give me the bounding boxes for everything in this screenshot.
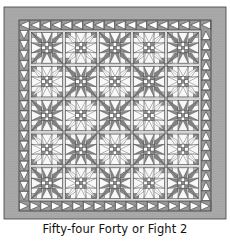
nine-patch-square xyxy=(117,185,120,188)
nine-patch-square xyxy=(83,178,86,181)
nine-patch-square xyxy=(117,148,120,151)
nine-patch-square xyxy=(147,50,150,53)
quilt-block-dark xyxy=(66,66,97,97)
nine-patch-square xyxy=(151,144,154,147)
nine-patch-square xyxy=(76,110,79,113)
quilt-block-light xyxy=(32,134,63,165)
nine-patch-square xyxy=(110,110,113,113)
nine-patch-square xyxy=(178,43,181,46)
nine-patch-square xyxy=(185,117,188,120)
nine-patch-square xyxy=(185,185,188,188)
nine-patch-square xyxy=(45,148,48,151)
nine-patch-square xyxy=(79,181,82,184)
nine-patch-square xyxy=(151,50,154,53)
nine-patch-square xyxy=(42,148,45,151)
quilt-block-dark xyxy=(168,33,199,64)
cornerstone xyxy=(62,97,65,100)
nine-patch-square xyxy=(110,148,113,151)
nine-patch-square xyxy=(181,181,184,184)
cornerstone xyxy=(164,97,167,100)
nine-patch-square xyxy=(76,43,79,46)
nine-patch-square xyxy=(83,114,86,117)
nine-patch-square xyxy=(79,46,82,49)
nine-patch-square xyxy=(83,77,86,80)
quilt-block-light xyxy=(32,66,63,97)
nine-patch-square xyxy=(49,77,52,80)
nine-patch-square xyxy=(49,80,52,83)
nine-patch-square xyxy=(79,50,82,53)
figure-caption: Fifty-four Forty or Fight 2 xyxy=(0,222,230,236)
nine-patch-square xyxy=(147,178,150,181)
nine-patch-square xyxy=(113,77,116,80)
nine-patch-square xyxy=(144,50,147,53)
nine-patch-square xyxy=(42,50,45,53)
quilt-block-dark xyxy=(168,100,199,131)
nine-patch-square xyxy=(79,144,82,147)
nine-patch-square xyxy=(144,185,147,188)
quilt-block-dark xyxy=(32,168,63,199)
quilt-block-dark xyxy=(168,168,199,199)
nine-patch-square xyxy=(45,144,48,147)
nine-patch-square xyxy=(178,83,181,86)
nine-patch-square xyxy=(83,185,86,188)
nine-patch-square xyxy=(181,178,184,181)
nine-patch-square xyxy=(185,181,188,184)
nine-patch-square xyxy=(110,185,113,188)
nine-patch-square xyxy=(144,110,147,113)
nine-patch-square xyxy=(113,50,116,53)
quilt-block-light xyxy=(134,100,165,131)
nine-patch-square xyxy=(42,80,45,83)
nine-patch-square xyxy=(42,46,45,49)
nine-patch-square xyxy=(110,46,113,49)
quilt-block-light xyxy=(66,33,97,64)
nine-patch-square xyxy=(79,83,82,86)
nine-patch-square xyxy=(185,83,188,86)
nine-patch-square xyxy=(178,117,181,120)
nine-patch-square xyxy=(147,43,150,46)
nine-patch-square xyxy=(117,181,120,184)
nine-patch-square xyxy=(151,46,154,49)
nine-patch-square xyxy=(151,80,154,83)
nine-patch-square xyxy=(117,77,120,80)
nine-patch-square xyxy=(49,144,52,147)
cornerstone xyxy=(96,131,99,134)
nine-patch-square xyxy=(181,144,184,147)
nine-patch-square xyxy=(178,50,181,53)
nine-patch-square xyxy=(144,43,147,46)
nine-patch-square xyxy=(185,144,188,147)
nine-patch-square xyxy=(181,114,184,117)
nine-patch-square xyxy=(181,185,184,188)
nine-patch-square xyxy=(76,83,79,86)
quilt-block-light xyxy=(168,134,199,165)
nine-patch-square xyxy=(45,46,48,49)
cornerstone xyxy=(130,165,133,168)
nine-patch-square xyxy=(42,178,45,181)
nine-patch-square xyxy=(151,117,154,120)
nine-patch-square xyxy=(181,117,184,120)
nine-patch-square xyxy=(49,83,52,86)
nine-patch-square xyxy=(181,110,184,113)
nine-patch-square xyxy=(76,185,79,188)
nine-patch-square xyxy=(79,178,82,181)
nine-patch-square xyxy=(117,110,120,113)
nine-patch-square xyxy=(181,148,184,151)
nine-patch-square xyxy=(181,83,184,86)
nine-patch-square xyxy=(181,151,184,154)
nine-patch-square xyxy=(110,77,113,80)
nine-patch-square xyxy=(79,80,82,83)
nine-patch-square xyxy=(151,148,154,151)
nine-patch-square xyxy=(178,77,181,80)
nine-patch-square xyxy=(83,148,86,151)
nine-patch-square xyxy=(147,110,150,113)
nine-patch-square xyxy=(147,80,150,83)
nine-patch-square xyxy=(110,50,113,53)
nine-patch-square xyxy=(83,181,86,184)
nine-patch-square xyxy=(144,144,147,147)
nine-patch-square xyxy=(76,80,79,83)
nine-patch-square xyxy=(185,151,188,154)
nine-patch-square xyxy=(76,178,79,181)
nine-patch-square xyxy=(76,50,79,53)
nine-patch-square xyxy=(151,181,154,184)
nine-patch-square xyxy=(110,151,113,154)
nine-patch-square xyxy=(42,43,45,46)
